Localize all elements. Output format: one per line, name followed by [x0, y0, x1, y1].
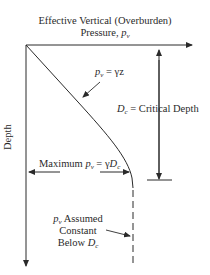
x-axis-title-2: Pressure, pv — [0, 27, 210, 39]
constant-note-line1: pv Assumed — [48, 213, 108, 225]
y-axis-label: Depth — [2, 124, 14, 150]
constant-note-line2: Constant — [48, 225, 108, 237]
maximum-pressure-label: Maximum pv = γDc — [39, 158, 120, 170]
linear-eq-leader — [83, 82, 100, 97]
critical-depth-label: Dc = Critical Depth — [117, 103, 199, 115]
constant-note-line3: Below Dc — [48, 237, 108, 249]
constant-note-leader — [106, 230, 130, 236]
linear-eq-label: pv = γz — [95, 66, 124, 78]
x-axis-title: Effective Vertical (Overburden) — [0, 15, 210, 27]
x-axis-title-line1: Effective Vertical (Overburden) — [38, 15, 171, 26]
